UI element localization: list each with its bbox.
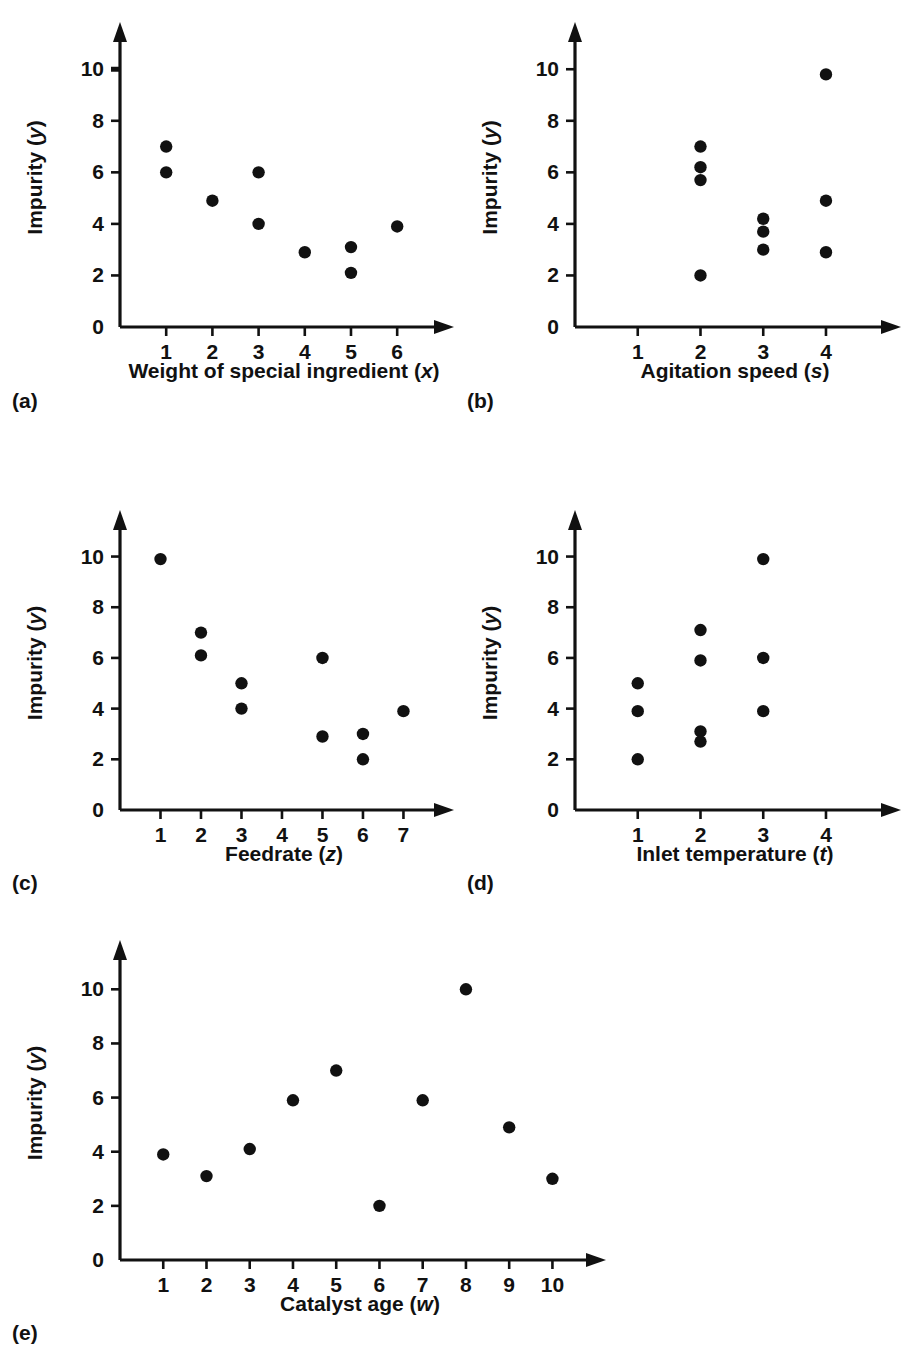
- data-point: [373, 1200, 385, 1212]
- data-point: [757, 553, 769, 565]
- y-tick-label: 2: [92, 747, 104, 770]
- y-axis-title: Impurity (y): [478, 606, 501, 720]
- panel-letter: (c): [12, 871, 38, 894]
- y-tick-label: 0: [92, 315, 104, 338]
- data-point: [287, 1094, 299, 1106]
- y-tick-label: 6: [92, 1086, 104, 1109]
- data-point: [694, 174, 706, 186]
- y-tick-label: 4: [92, 212, 104, 235]
- scatter-panel-b: 02468101234Agitation speed (s)Impurity (…: [455, 0, 909, 430]
- data-point: [195, 626, 207, 638]
- figure-root: 0246810123456Weight of special ingredien…: [0, 0, 909, 1370]
- data-point: [632, 677, 644, 689]
- x-axis-arrow-icon: [586, 1253, 606, 1267]
- x-axis-arrow-icon: [881, 803, 901, 817]
- data-point: [820, 194, 832, 206]
- y-tick-label: 0: [92, 1248, 104, 1271]
- data-point: [417, 1094, 429, 1106]
- x-tick-label: 10: [541, 1273, 564, 1296]
- data-point: [160, 166, 172, 178]
- x-tick-label: 8: [460, 1273, 472, 1296]
- y-axis-arrow-icon: [113, 940, 127, 960]
- data-point: [694, 161, 706, 173]
- y-tick-label: 10: [81, 545, 104, 568]
- scatter-panel-c: 02468101234567Feedrate (z)Impurity (y)(c…: [0, 478, 455, 908]
- data-point: [820, 246, 832, 258]
- y-tick-label: 8: [92, 1031, 104, 1054]
- y-tick-label: 10: [81, 977, 104, 1000]
- data-point: [195, 649, 207, 661]
- y-tick-label: 10: [81, 57, 104, 80]
- data-point-group: [157, 983, 559, 1212]
- data-point: [820, 68, 832, 80]
- data-point: [252, 218, 264, 230]
- scatter-panel-a: 0246810123456Weight of special ingredien…: [0, 0, 455, 430]
- y-tick-label: 2: [547, 747, 559, 770]
- data-point: [357, 728, 369, 740]
- y-axis-arrow-icon: [113, 22, 127, 42]
- data-point: [632, 753, 644, 765]
- x-axis-variable: w: [417, 1292, 435, 1315]
- y-axis-title: Impurity (y): [23, 606, 46, 720]
- x-axis-title: Weight of special ingredient (x): [128, 359, 439, 382]
- data-point: [460, 983, 472, 995]
- data-point: [757, 652, 769, 664]
- data-point: [503, 1121, 515, 1133]
- y-axis-arrow-icon: [113, 510, 127, 530]
- scatter-panel-d: 02468101234Inlet temperature (t)Impurity…: [455, 478, 909, 908]
- scatter-plot: 02468101234567Feedrate (z)Impurity (y)(c…: [0, 478, 455, 908]
- data-point: [694, 654, 706, 666]
- x-axis-arrow-icon: [434, 803, 454, 817]
- x-tick-label: 6: [357, 823, 369, 846]
- x-axis-variable: z: [324, 842, 336, 865]
- data-point: [200, 1170, 212, 1182]
- panel-letter: (e): [12, 1321, 38, 1344]
- y-axis-title: Impurity (y): [23, 120, 46, 234]
- y-axis-arrow-icon: [568, 22, 582, 42]
- x-axis-title: Feedrate (z): [225, 842, 343, 865]
- data-point: [345, 267, 357, 279]
- y-tick-label: 8: [92, 109, 104, 132]
- x-axis-title: Agitation speed (s): [640, 359, 829, 382]
- data-point: [757, 225, 769, 237]
- data-point: [694, 269, 706, 281]
- data-point: [345, 241, 357, 253]
- data-point-group: [160, 140, 403, 279]
- y-tick-label: 10: [536, 545, 559, 568]
- data-point: [694, 140, 706, 152]
- data-point: [235, 677, 247, 689]
- data-point: [316, 730, 328, 742]
- data-point: [694, 624, 706, 636]
- data-point: [397, 705, 409, 717]
- data-point: [316, 652, 328, 664]
- y-tick-label: 10: [536, 57, 559, 80]
- x-axis-title: Catalyst age (w): [280, 1292, 440, 1315]
- data-point-group: [632, 553, 770, 766]
- data-point: [391, 220, 403, 232]
- data-point-group: [154, 553, 409, 766]
- data-point: [757, 705, 769, 717]
- data-point: [157, 1148, 169, 1160]
- data-point: [154, 553, 166, 565]
- y-tick-label: 2: [92, 263, 104, 286]
- data-point: [235, 702, 247, 714]
- y-tick-label: 4: [547, 212, 559, 235]
- y-tick-label: 8: [547, 109, 559, 132]
- panel-letter: (d): [467, 871, 494, 894]
- data-point: [632, 705, 644, 717]
- y-tick-label: 8: [547, 595, 559, 618]
- data-point: [330, 1064, 342, 1076]
- x-tick-label: 7: [398, 823, 410, 846]
- data-point: [252, 166, 264, 178]
- y-tick-label: 8: [92, 595, 104, 618]
- x-tick-label: 2: [201, 1273, 213, 1296]
- scatter-plot: 0246810123456Weight of special ingredien…: [0, 0, 455, 430]
- y-tick-label: 2: [547, 263, 559, 286]
- y-tick-label: 4: [92, 697, 104, 720]
- data-point: [757, 213, 769, 225]
- y-axis-title: Impurity (y): [478, 120, 501, 234]
- data-point: [546, 1173, 558, 1185]
- y-tick-label: 0: [547, 315, 559, 338]
- data-point-group: [694, 68, 832, 281]
- y-tick-label: 2: [92, 1194, 104, 1217]
